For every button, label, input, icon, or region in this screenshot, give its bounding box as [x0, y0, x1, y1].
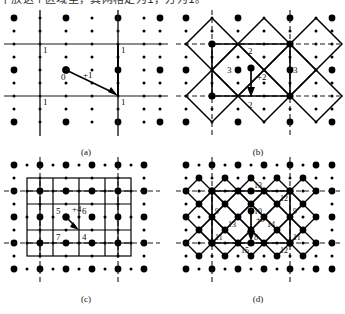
label-b-bottom: 2 — [248, 100, 253, 110]
panel-c: 5 6 7 4 +4 (c) — [0, 155, 172, 305]
label-d-13top: 13 — [254, 181, 262, 190]
label-b-top: 2 — [248, 46, 253, 56]
label-increment-c: +4 — [72, 204, 82, 214]
label-c-7: 7 — [56, 232, 61, 242]
label-c-4: 4 — [82, 232, 87, 242]
label-increment-d: +8 — [256, 215, 265, 224]
label-b-left: 3 — [227, 65, 232, 75]
label-corner-tl: 1 — [43, 45, 48, 55]
panel-a: 1 1 1 1 0 +1 (a) — [0, 8, 172, 158]
label-d-14: 14 — [267, 220, 275, 229]
vector-arrow-c — [62, 213, 79, 230]
diamond-grid-b — [186, 18, 342, 122]
label-d-13: 13 — [228, 220, 236, 229]
panel-b: 2 3 3 2 +2 (b) — [172, 8, 344, 158]
page-top-text: 下放这个区域里，其网格定为1，方为1。 — [0, 0, 345, 6]
label-d-8: 8 — [254, 233, 258, 242]
label-c-6: 6 — [82, 206, 87, 216]
label-d-11r: 11 — [293, 233, 301, 242]
label-corner-tr: 1 — [121, 45, 126, 55]
label-d-11l: 11 — [215, 233, 223, 242]
label-corner-bl: 1 — [43, 97, 48, 107]
label-increment-a: +1 — [83, 70, 93, 80]
label-d-9r: 9 — [293, 207, 297, 216]
label-increment-b: +2 — [257, 72, 267, 82]
caption-c: (c) — [0, 294, 172, 304]
label-corner-br: 1 — [121, 97, 126, 107]
panel-a-canvas: 1 1 1 1 0 +1 — [0, 8, 172, 140]
label-d-9l: 9 — [215, 207, 219, 216]
panel-d: 13 12 9 10 9 13 14 11 8 11 15 12 +8 (d) — [172, 155, 344, 305]
label-center-a: 0 — [61, 72, 66, 82]
caption-d: (d) — [172, 294, 344, 304]
panel-c-canvas: 5 6 7 4 +4 — [0, 155, 172, 287]
label-d-12b: 12 — [280, 246, 288, 255]
panel-b-canvas: 2 3 3 2 +2 — [172, 8, 344, 140]
label-c-5: 5 — [56, 206, 61, 216]
label-b-right: 3 — [293, 65, 298, 75]
label-d-12: 12 — [280, 194, 288, 203]
label-d-15: 15 — [241, 246, 249, 255]
panel-d-canvas: 13 12 9 10 9 13 14 11 8 11 15 12 +8 — [172, 155, 344, 287]
figure-root: 下放这个区域里，其网格定为1，方为1。 — [0, 0, 345, 314]
dot-lattice-b — [183, 15, 336, 126]
